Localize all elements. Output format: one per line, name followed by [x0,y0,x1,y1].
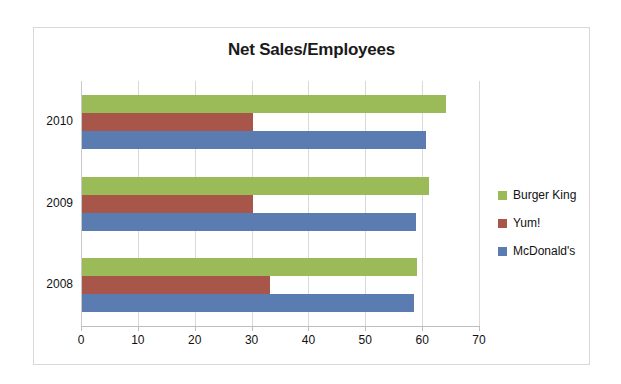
x-axis-tick-mark [365,326,366,331]
legend-label: Burger King [513,188,576,202]
x-axis-tick-label: 30 [245,333,258,347]
x-axis-tick-label: 0 [78,333,85,347]
x-axis-tick-mark [422,326,423,331]
x-axis-tick-label: 50 [359,333,372,347]
bar-burger-king-2009[interactable] [82,177,429,195]
chart-title: Net Sales/Employees [34,40,589,60]
bar-row [82,95,480,113]
bar-row [82,276,480,294]
bar-group: 2010 [82,95,480,149]
x-axis-tick-label: 70 [472,333,485,347]
x-axis-tick-mark [195,326,196,331]
bar-mcdonald-s-2008[interactable] [82,294,414,312]
category-label-2008: 2008 [46,277,73,291]
bar-burger-king-2008[interactable] [82,258,417,276]
chart-legend: Burger KingYum!McDonald's [498,181,576,265]
legend-swatch-icon [498,247,507,256]
legend-label: McDonald's [513,244,575,258]
legend-swatch-icon [498,219,507,228]
bar-group: 2008 [82,258,480,312]
x-axis-tick-label: 10 [131,333,144,347]
bar-row [82,195,480,213]
x-axis-tick-label: 20 [188,333,201,347]
x-axis-line [81,326,479,327]
legend-item-burger-king[interactable]: Burger King [498,181,576,209]
bar-row [82,177,480,195]
bar-yum-2008[interactable] [82,276,270,294]
category-label-2010: 2010 [46,114,73,128]
legend-item-mcdonald-s[interactable]: McDonald's [498,237,576,265]
x-axis-tick-mark [81,326,82,331]
bar-row [82,213,480,231]
bar-burger-king-2010[interactable] [82,95,446,113]
bar-group: 2009 [82,177,480,231]
plot-area: 201020092008 010203040506070 [81,81,479,326]
legend-label: Yum! [513,216,540,230]
bar-row [82,131,480,149]
x-axis-tick-label: 60 [415,333,428,347]
bar-yum-2009[interactable] [82,195,253,213]
legend-swatch-icon [498,191,507,200]
bar-mcdonald-s-2009[interactable] [82,213,416,231]
category-label-2009: 2009 [46,196,73,210]
legend-item-yum[interactable]: Yum! [498,209,576,237]
x-axis-tick-mark [308,326,309,331]
chart-frame: Net Sales/Employees 201020092008 0102030… [33,27,590,365]
x-axis-tick-mark [138,326,139,331]
x-axis-tick-mark [479,326,480,331]
bar-mcdonald-s-2010[interactable] [82,131,426,149]
bar-yum-2010[interactable] [82,113,253,131]
bar-row [82,113,480,131]
bar-row [82,258,480,276]
x-axis-tick-label: 40 [302,333,315,347]
bar-row [82,294,480,312]
x-axis-tick-mark [252,326,253,331]
